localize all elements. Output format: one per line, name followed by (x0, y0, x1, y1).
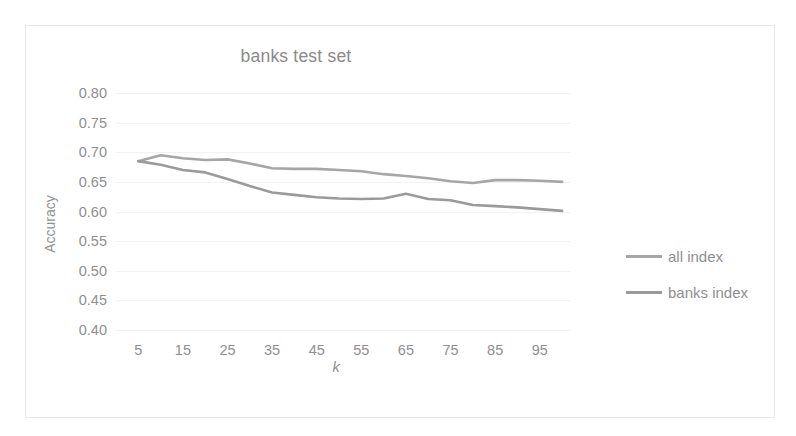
y-tick-label: 0.55 (79, 233, 107, 249)
x-tick-label: 45 (309, 342, 325, 358)
x-tick-label: 35 (264, 342, 280, 358)
x-axis-title: k (96, 359, 576, 375)
y-tick-label: 0.80 (79, 85, 107, 101)
x-tick-label: 95 (532, 342, 548, 358)
x-tick-label: 85 (487, 342, 503, 358)
gridline (116, 330, 571, 331)
chart-frame: banks test set Accuracy 0.800.750.700.65… (25, 25, 775, 418)
y-tick-label: 0.60 (79, 204, 107, 220)
y-tick-label: 0.70 (79, 144, 107, 160)
series-line-all-index (138, 155, 562, 183)
x-tick-label: 15 (175, 342, 191, 358)
chart-legend: all indexbanks index (626, 238, 796, 310)
legend-line-icon (626, 255, 662, 258)
legend-label: banks index (668, 284, 748, 301)
y-tick-label: 0.65 (79, 174, 107, 190)
plot-area: 0.800.750.700.650.600.550.500.450.40 515… (116, 93, 571, 330)
y-tick-label: 0.75 (79, 115, 107, 131)
legend-entry[interactable]: all index (626, 238, 796, 274)
series-lines (116, 93, 571, 330)
legend-label: all index (668, 248, 723, 265)
y-axis-title: Accuracy (42, 164, 58, 284)
series-line-banks-index (138, 161, 562, 211)
legend-entry[interactable]: banks index (626, 274, 796, 310)
x-tick-label: 5 (134, 342, 142, 358)
legend-line-icon (626, 291, 662, 294)
x-tick-label: 25 (219, 342, 235, 358)
x-tick-label: 55 (353, 342, 369, 358)
x-tick-label: 65 (398, 342, 414, 358)
y-tick-label: 0.45 (79, 292, 107, 308)
y-tick-label: 0.40 (79, 322, 107, 338)
y-tick-label: 0.50 (79, 263, 107, 279)
x-tick-label: 75 (442, 342, 458, 358)
chart-title: banks test set (26, 46, 566, 67)
